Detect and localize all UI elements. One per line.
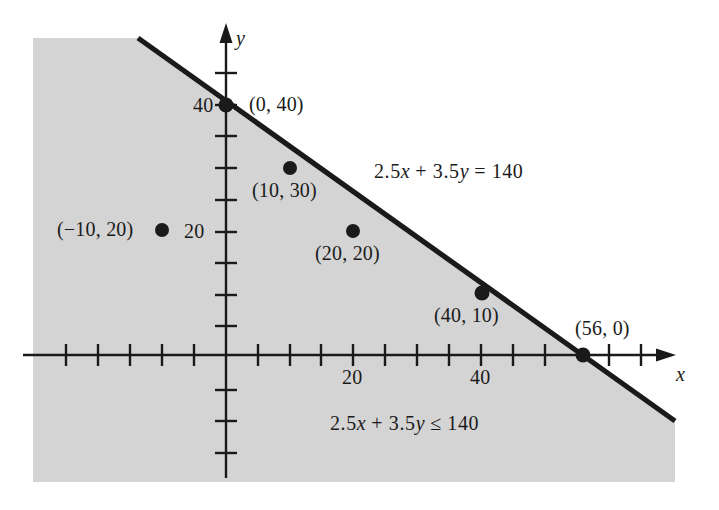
point-20-20[interactable]	[346, 224, 360, 238]
point-label-10-30: (10, 30)	[252, 180, 317, 200]
y-tick-label-20: 20	[184, 221, 205, 241]
ineq-var-y: y	[416, 412, 425, 434]
region-inequality-label: 2.5x + 3.5y ≤ 140	[330, 413, 479, 433]
y-tick-label-40: 40	[193, 95, 214, 115]
point-label-0-40: (0, 40)	[249, 94, 304, 114]
point-neg10-20[interactable]	[155, 223, 169, 237]
point-0-40[interactable]	[219, 98, 234, 113]
x-axis-label: x	[676, 364, 685, 384]
eq-constant: 140	[492, 160, 524, 182]
eq-var-x: x	[401, 160, 410, 182]
eq-var-y: y	[460, 160, 469, 182]
ineq-var-x: x	[357, 412, 366, 434]
x-tick-label-40: 40	[470, 367, 491, 387]
y-axis-label: y	[236, 28, 245, 48]
eq-plus: +	[415, 160, 427, 182]
figure-canvas: y x 40 20 20 40 (0, 40) (10, 30) (−10, 2…	[0, 0, 719, 510]
eq-coef-a: 2.5	[374, 160, 401, 182]
boundary-equation-label: 2.5x + 3.5y = 140	[374, 161, 523, 181]
eq-coef-b: 3.5	[433, 160, 460, 182]
ineq-coef-b: 3.5	[389, 412, 416, 434]
ineq-coef-a: 2.5	[330, 412, 357, 434]
point-label-neg10-20: (−10, 20)	[57, 219, 133, 239]
eq-relation: =	[474, 160, 486, 182]
point-40-10[interactable]	[475, 286, 490, 301]
x-tick-label-20: 20	[342, 367, 363, 387]
point-10-30[interactable]	[283, 161, 297, 175]
point-label-40-10: (40, 10)	[434, 305, 499, 325]
point-label-56-0: (56, 0)	[575, 318, 630, 338]
ineq-relation: ≤	[430, 412, 442, 434]
ineq-constant: 140	[447, 412, 479, 434]
point-56-0[interactable]	[576, 348, 591, 363]
ineq-plus: +	[371, 412, 383, 434]
point-label-20-20: (20, 20)	[315, 243, 380, 263]
